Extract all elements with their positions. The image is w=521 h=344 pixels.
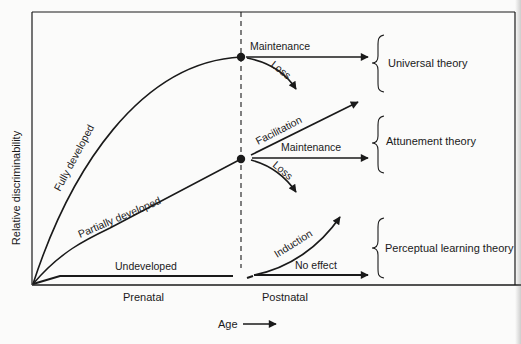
fully-developed-node: [237, 53, 245, 61]
prenatal-label: Prenatal: [123, 291, 164, 303]
perceptual-learning-theory-label: Perceptual learning theory: [385, 242, 514, 254]
universal-theory-label: Universal theory: [388, 57, 468, 69]
partially-developed-label: Partially developed: [76, 194, 163, 240]
undeveloped-line: [33, 276, 233, 284]
postnatal-label: Postnatal: [262, 291, 308, 303]
page-edge-shadow: [515, 0, 521, 344]
partially-developed-node: [237, 155, 245, 163]
undeveloped-label: Undeveloped: [115, 260, 177, 272]
top-maintenance-label: Maintenance: [250, 40, 310, 52]
y-axis-label: Relative discriminability: [10, 130, 22, 245]
diagram-canvas: Universal theory Attunement theory Perce…: [0, 0, 521, 344]
no-effect-label: No effect: [295, 259, 337, 271]
mid-maintenance-label: Maintenance: [281, 141, 341, 153]
mid-loss-label: Loss: [271, 158, 296, 181]
induction-label: Induction: [272, 227, 315, 260]
attunement-theory-label: Attunement theory: [386, 135, 476, 147]
universal-theory-brace: [372, 35, 384, 92]
attunement-theory-brace: [372, 116, 384, 173]
x-axis-label: Age: [218, 318, 238, 330]
top-loss-label: Loss: [269, 58, 294, 81]
perceptual-learning-theory-brace: [372, 218, 384, 278]
fully-developed-label: Fully developed: [51, 122, 96, 193]
developmental-theories-diagram: Universal theory Attunement theory Perce…: [0, 0, 521, 344]
